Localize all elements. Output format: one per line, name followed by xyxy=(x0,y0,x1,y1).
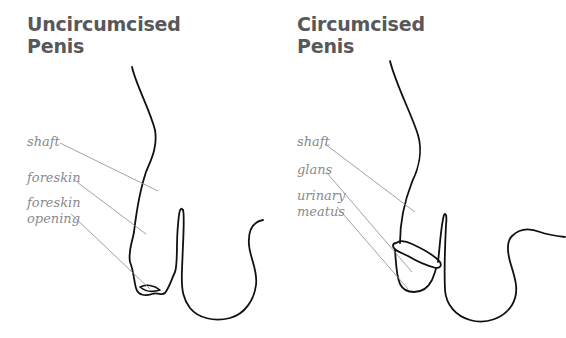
label-foreskin: foreskin xyxy=(27,170,81,186)
label-shaft-circumcised: shaft xyxy=(297,134,330,150)
circumcised-panel: Circumcised Penis shaft glans urinary me… xyxy=(283,0,566,338)
circumcised-title: Circumcised Penis xyxy=(297,13,425,57)
label-urinary-meatus-line2: meatus xyxy=(297,204,345,219)
uncircumcised-title: Uncircumcised Penis xyxy=(27,13,181,57)
label-urinary-meatus: urinary meatus xyxy=(297,188,345,220)
label-glans: glans xyxy=(297,162,332,178)
label-foreskin-opening: foreskin opening xyxy=(27,195,81,227)
label-urinary-meatus-line1: urinary xyxy=(297,188,345,203)
circumcised-title-line1: Circumcised xyxy=(297,13,425,35)
circumcised-title-line2: Penis xyxy=(297,35,354,57)
uncircumcised-title-line1: Uncircumcised xyxy=(27,13,181,35)
label-foreskin-opening-line1: foreskin xyxy=(27,195,81,210)
uncircumcised-title-line2: Penis xyxy=(27,35,84,57)
uncircumcised-panel: Uncircumcised Penis shaft foreskin fores… xyxy=(0,0,283,338)
label-shaft: shaft xyxy=(27,134,60,150)
label-foreskin-opening-line2: opening xyxy=(27,211,80,226)
